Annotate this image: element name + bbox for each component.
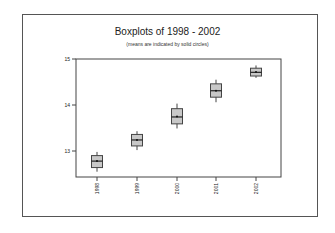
x-tick-label: 1999	[134, 183, 140, 194]
mean-dot	[136, 139, 138, 141]
mean-dot	[176, 116, 178, 118]
y-tick-label: 15	[64, 56, 70, 62]
boxplot-area: 13141519981999200020012002	[0, 0, 335, 233]
x-tick-label: 2001	[213, 183, 219, 194]
x-tick-label: 1998	[94, 183, 100, 194]
x-tick-label: 2000	[174, 183, 180, 194]
mean-dot	[215, 90, 217, 92]
y-tick-label: 13	[64, 148, 70, 154]
x-tick-label: 2002	[253, 183, 259, 194]
mean-dot	[96, 160, 98, 162]
y-tick-label: 14	[64, 102, 70, 108]
mean-dot	[255, 71, 257, 73]
